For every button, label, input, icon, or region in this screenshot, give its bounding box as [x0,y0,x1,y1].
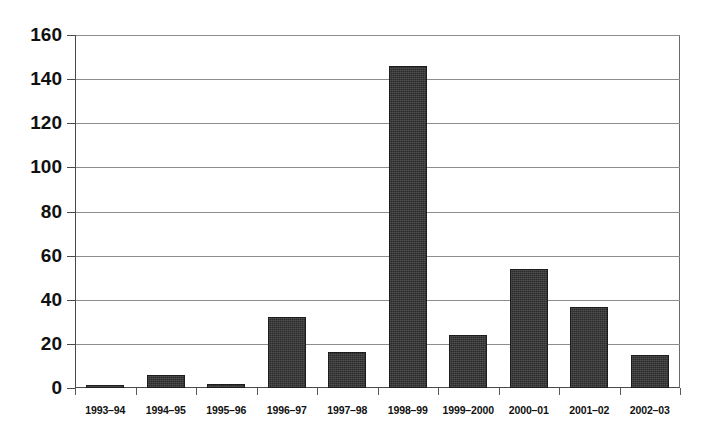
x-axis-tick [196,388,197,395]
x-axis-category-label: 2002–03 [614,404,687,416]
x-axis-tick [317,388,318,395]
x-axis-labels-group: 1993–941994–951995–961996–971997–981998–… [75,404,680,428]
bar[interactable] [449,335,487,388]
bar-chart: 020406080100120140160 1993–941994–951995… [0,0,708,448]
x-axis-tick [378,388,379,395]
x-axis-tick [499,388,500,395]
bar[interactable] [389,66,427,388]
bar-slot [317,35,378,388]
x-axis-tick [620,388,621,395]
x-axis-ticks-group [75,388,680,396]
bars-group [75,35,680,388]
y-axis-tick-label: 160 [0,24,62,46]
x-axis-tick [559,388,560,395]
bar[interactable] [328,352,366,388]
bar-slot [257,35,318,388]
bar-slot [499,35,560,388]
x-axis-tick [680,388,681,395]
bar-slot [620,35,681,388]
y-axis-tick-label: 80 [0,201,62,223]
bar[interactable] [570,307,608,388]
y-axis-tick-label: 100 [0,156,62,178]
y-axis-tick-label: 40 [0,289,62,311]
bar-slot [378,35,439,388]
bar-slot [196,35,257,388]
y-axis-tick-label: 120 [0,112,62,134]
x-axis-tick [438,388,439,395]
bar[interactable] [510,269,548,388]
bar[interactable] [631,355,669,388]
bar[interactable] [147,375,185,388]
bar-slot [75,35,136,388]
y-axis-tick-label: 140 [0,68,62,90]
y-axis-tick-label: 0 [0,377,62,399]
y-axis-tick-label: 60 [0,245,62,267]
bar-slot [136,35,197,388]
bar-slot [559,35,620,388]
bar-slot [438,35,499,388]
x-axis-tick [75,388,76,395]
bar[interactable] [268,317,306,388]
x-axis-tick [257,388,258,395]
y-axis-tick-label: 20 [0,333,62,355]
x-axis-tick [136,388,137,395]
